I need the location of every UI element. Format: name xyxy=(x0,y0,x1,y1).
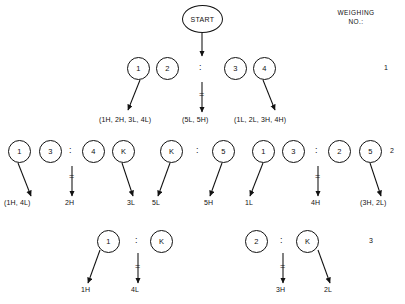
node-r2b-right-5: 5 xyxy=(212,140,235,163)
node-r3b-right-k: K xyxy=(296,230,319,253)
outcome-r2c-balance: 4H xyxy=(311,199,320,206)
node-r2a-left-3: 3 xyxy=(39,140,62,163)
node-r2b-left-k: K xyxy=(160,140,183,163)
node-r3a-left-1: 1 xyxy=(97,230,120,253)
start-node: START xyxy=(182,5,223,33)
node-r3b-left-2: 2 xyxy=(245,230,268,253)
node-r1-left-1: 1 xyxy=(127,57,150,80)
operator-colon-r1: : xyxy=(199,63,202,72)
operator-colon-r3b: : xyxy=(280,236,283,245)
outcome-r2c-left: 1L xyxy=(245,199,253,206)
outcome-r2b-left: 5L xyxy=(152,199,160,206)
outcome-r2a-left: (1H, 4L) xyxy=(4,199,31,206)
outcome-r2a-right: 3L xyxy=(127,199,135,206)
outcome-r1-balance: (5L, 5H) xyxy=(182,116,209,123)
outcome-r3b-balance: 3H xyxy=(276,286,285,293)
weighing-number-2: 2 xyxy=(390,147,394,154)
node-r1-left-2: 2 xyxy=(156,57,179,80)
outcome-r1-right: (1L, 2L, 3H, 4H) xyxy=(234,116,286,123)
outcome-r3a-left: 1H xyxy=(81,286,90,293)
operator-colon-r3a: : xyxy=(135,236,138,245)
node-r2a-right-4: 4 xyxy=(82,140,105,163)
operator-equals-r3a: = xyxy=(135,262,140,271)
node-r2c-left-1: 1 xyxy=(252,140,275,163)
weighing-number-3: 3 xyxy=(369,237,373,244)
operator-equals-r2c: = xyxy=(315,172,320,181)
node-r2c-right-2: 2 xyxy=(328,140,351,163)
operator-equals-r3b: = xyxy=(280,262,285,271)
outcome-r3b-right: 2L xyxy=(324,286,332,293)
node-r2c-right-5: 5 xyxy=(359,140,382,163)
node-r1-right-4: 4 xyxy=(253,57,276,80)
outcome-r2a-balance: 2H xyxy=(65,199,74,206)
outcome-r3a-balance: 4L xyxy=(131,286,139,293)
outcome-r1-left: (1H, 2H, 3L, 4L) xyxy=(99,116,151,123)
node-r2c-left-3: 3 xyxy=(282,140,305,163)
node-r1-right-3: 3 xyxy=(224,57,247,80)
diagram-canvas: WEIGHING NO.: START 1 2 : = 3 4 1 (1H, 2… xyxy=(0,0,405,304)
node-r2a-left-1: 1 xyxy=(8,140,31,163)
node-r3a-right-k: K xyxy=(150,230,173,253)
weighing-number-1: 1 xyxy=(384,64,388,71)
weighing-no-header: WEIGHING NO.: xyxy=(318,8,394,27)
operator-colon-r2b: : xyxy=(196,146,199,155)
operator-equals-r1: = xyxy=(199,90,204,99)
outcome-r2b-right: 5H xyxy=(204,199,213,206)
operator-equals-r2a: = xyxy=(69,172,74,181)
operator-colon-r2a: : xyxy=(69,146,72,155)
node-r2a-right-k: K xyxy=(112,140,135,163)
outcome-r2c-right: (3H, 2L) xyxy=(360,199,387,206)
operator-colon-r2c: : xyxy=(315,146,318,155)
